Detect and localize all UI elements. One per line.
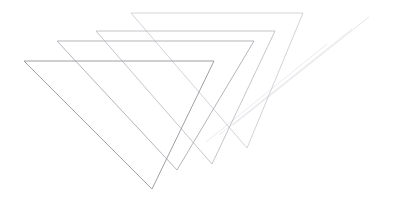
artboard: Overlapping Downward Triangles Four thin…: [0, 0, 397, 204]
triangles-illustration: [0, 0, 397, 204]
